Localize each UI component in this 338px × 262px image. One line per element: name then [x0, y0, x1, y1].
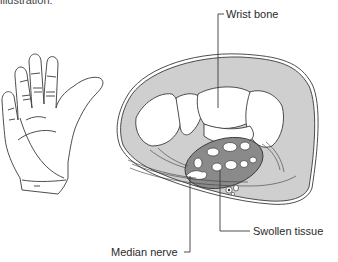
hand-drawing: [2, 54, 103, 194]
label-median-nerve: Median nerve: [111, 246, 178, 258]
illustration: [0, 0, 338, 262]
carpal-tunnel-figure: illustration:: [0, 0, 338, 262]
label-swollen-tissue: Swollen tissue: [253, 225, 323, 237]
label-wrist-bone: Wrist bone: [226, 8, 278, 20]
